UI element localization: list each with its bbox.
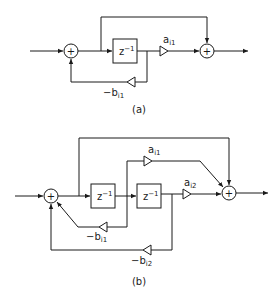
adder-plus-sign: + [203, 46, 211, 57]
adder-output-b: + [222, 186, 236, 200]
gain-label-a-i2: ai2 [184, 177, 197, 190]
gain-triangle-a-i1 [144, 156, 152, 166]
delay-block-a: z−1 [113, 39, 137, 63]
adder-output-a: + [200, 44, 214, 58]
diagram-a: + z−1 ai1 + −bi1 (a) [30, 17, 248, 115]
diagram-b: + z−1 z−1 ai2 ai1 + [15, 138, 268, 287]
gain-triangle-neg-b-i2 [143, 245, 151, 255]
gain-triangle-a-i2 [183, 189, 191, 199]
gain-triangle-neg-b-i1 [127, 77, 135, 87]
adder-plus-sign: + [225, 188, 233, 199]
gain-label-a-i1: ai1 [163, 34, 176, 47]
adder-plus-sign: + [67, 46, 75, 57]
adder-input-b: + [44, 189, 58, 203]
gain-label-neg-b-i2: −bi2 [131, 255, 152, 268]
caption-b: (b) [132, 276, 146, 287]
gain-label-neg-b-i1: −bi1 [86, 231, 107, 244]
gain-label-a-i1: ai1 [148, 144, 161, 157]
delay-block-2-b: z−1 [137, 184, 161, 208]
block-diagram-figure: + z−1 ai1 + −bi1 (a) [0, 0, 279, 300]
adder-input-a: + [64, 44, 78, 58]
caption-a: (a) [132, 104, 146, 115]
gain-triangle-a-i1 [160, 46, 168, 56]
delay-block-1-b: z−1 [91, 184, 115, 208]
adder-plus-sign: + [47, 191, 55, 202]
gain-label-neg-b-i1: −bi1 [103, 87, 124, 100]
